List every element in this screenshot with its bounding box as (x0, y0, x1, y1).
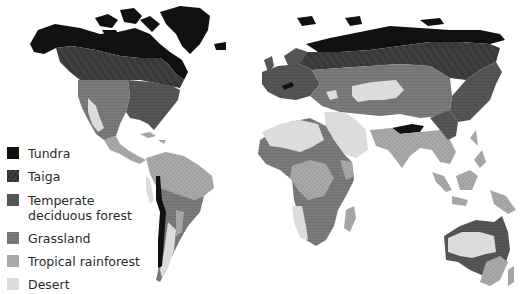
grassland-swatch-icon (7, 232, 19, 244)
australia (444, 216, 514, 286)
north-america (30, 8, 188, 164)
legend-label: Taiga (28, 169, 60, 184)
madagascar (344, 206, 356, 232)
tundra-swatch-icon (7, 147, 19, 159)
legend-item-taiga: Taiga (7, 169, 60, 184)
temperate-swatch-icon (7, 194, 19, 206)
legend-label: Tundra (28, 146, 70, 161)
legend-item-tropical-rainforest: Tropical rainforest (7, 254, 140, 269)
legend-label: Grassland (28, 231, 91, 246)
legend-item-desert: Desert (7, 277, 70, 292)
south-america (146, 152, 214, 282)
taiga-swatch-icon (7, 170, 19, 182)
legend-item-temperate-deciduous-forest: Temperate deciduous forest (7, 193, 132, 223)
tropical-swatch-icon (7, 255, 19, 267)
greenland (160, 6, 226, 54)
legend-label: Desert (28, 277, 70, 292)
desert-swatch-icon (7, 278, 19, 290)
legend-item-tundra: Tundra (7, 146, 70, 161)
legend-item-grassland: Grassland (7, 231, 91, 246)
legend-label: Temperate deciduous forest (28, 193, 132, 223)
world-biome-map (0, 0, 525, 294)
legend-label: Tropical rainforest (28, 254, 140, 269)
